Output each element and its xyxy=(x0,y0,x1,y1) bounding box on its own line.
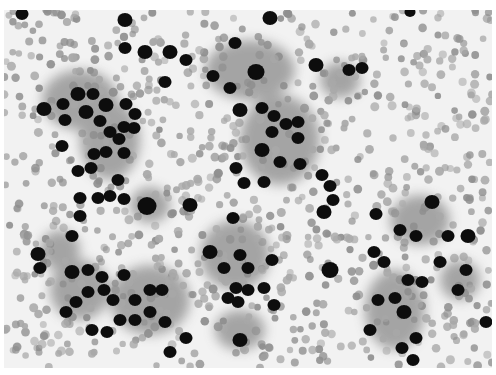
cytology-micrograph xyxy=(4,10,492,368)
micrograph-frame xyxy=(0,0,496,375)
